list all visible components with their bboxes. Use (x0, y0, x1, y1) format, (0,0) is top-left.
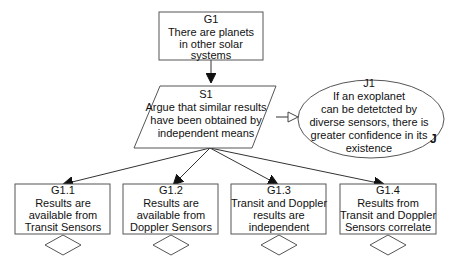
undeveloped-diamond-icon (370, 235, 406, 255)
goal-g1-line: systems (191, 49, 232, 61)
goal-g1[interactable]: G1 There are planets in other solar syst… (159, 12, 263, 61)
edge-s1-g13 (210, 148, 277, 184)
hollow-arrow-icon (288, 112, 298, 122)
goal-g1-2-line: available from (137, 209, 205, 221)
strategy-s1-id: S1 (199, 88, 212, 100)
goal-g1-1[interactable]: G1.1 Results are available from Transit … (15, 184, 110, 255)
edge-s1-g11 (64, 148, 210, 184)
goal-g1-3-line: results are (253, 209, 304, 221)
undeveloped-diamond-icon (45, 235, 81, 255)
undeveloped-diamond-icon (153, 235, 189, 255)
goal-g1-2-id: G1.2 (159, 184, 183, 196)
goal-g1-1-line: Results are (35, 197, 91, 209)
justification-j1-line: greater confidence in its (311, 129, 428, 141)
goal-g1-2[interactable]: G1.2 Results are available from Doppler … (123, 184, 218, 255)
goal-g1-1-line: available from (29, 209, 97, 221)
strategy-s1-line: Argue that similar results (145, 101, 267, 113)
goal-g1-3-line: independent (249, 221, 310, 233)
goal-g1-4[interactable]: G1.4 Results from Transit and Doppler Se… (340, 184, 437, 255)
strategy-s1-line: have been obtained by (150, 114, 262, 126)
goal-g1-3-line: Transit and Doppler (231, 197, 328, 209)
strategy-s1[interactable]: S1 Argue that similar results have been … (134, 86, 276, 148)
strategy-s1-line: independent means (158, 127, 255, 139)
goal-g1-2-line: Results are (143, 197, 199, 209)
goal-g1-4-line: Sensors correlate (345, 221, 431, 233)
goal-g1-2-line: Doppler Sensors (130, 221, 212, 233)
goal-g1-4-id: G1.4 (376, 184, 400, 196)
goal-g1-1-id: G1.1 (51, 184, 75, 196)
goal-g1-line: There are planets (168, 26, 255, 38)
goal-g1-4-line: Results from (357, 197, 419, 209)
justification-j1-line: diverse sensors, there is (309, 116, 429, 128)
justification-j1-id: J1 (363, 77, 375, 89)
gsn-diagram: G1 There are planets in other solar syst… (0, 0, 452, 272)
edge-s1-g12 (174, 148, 210, 184)
justification-j1[interactable]: J1 If an exoplanet can be detetcted by d… (298, 77, 444, 158)
goal-g1-id: G1 (204, 13, 219, 25)
goal-g1-3-id: G1.3 (267, 184, 291, 196)
goal-g1-4-line: Transit and Doppler (340, 209, 437, 221)
undeveloped-diamond-icon (261, 235, 297, 255)
justification-marker: J (430, 132, 437, 146)
justification-j1-line: existence (346, 142, 392, 154)
goal-g1-1-line: Transit Sensors (25, 221, 102, 233)
goal-g1-3[interactable]: G1.3 Transit and Doppler results are ind… (231, 184, 328, 255)
justification-j1-line: can be detetcted by (321, 103, 418, 115)
justification-j1-line: If an exoplanet (333, 90, 405, 102)
